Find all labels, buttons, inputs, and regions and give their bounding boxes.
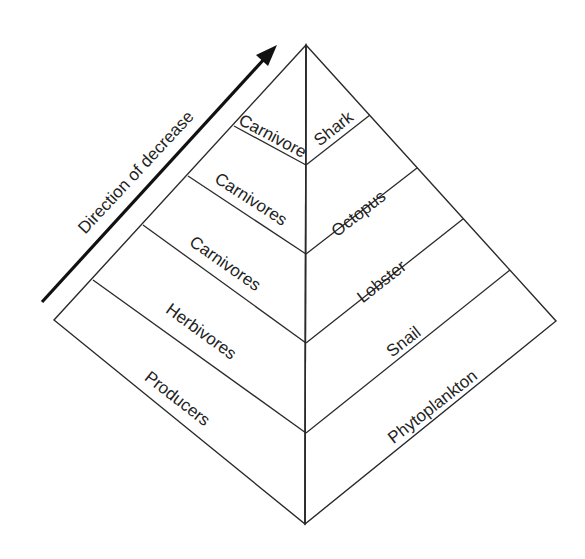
trophic-level-label: Carnivores [186,232,264,295]
trophic-level-label: Herbivores [162,300,240,364]
right-divider-4 [306,270,510,433]
organism-label: Phytoplankton [384,366,481,447]
left-divider-3 [143,225,306,343]
trophic-level-label: Carnivore [236,110,310,161]
organism-label: Lobster [353,257,410,307]
food-pyramid-diagram: Direction of decrease Carnivore Carnivor… [0,0,585,559]
organism-label: Octopus [328,187,390,241]
arrow-label: Direction of decrease [74,107,197,237]
pyramid-center-ridge [305,45,306,524]
